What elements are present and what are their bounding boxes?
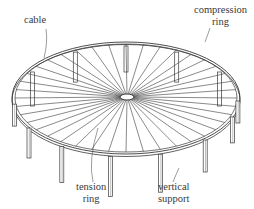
label-vertical-support-line2: support	[158, 193, 190, 205]
label-vertical-support-line1: vertical	[158, 181, 190, 193]
label-compression-ring-line1: compression	[194, 4, 247, 16]
label-tension-ring-line2: ring	[76, 193, 106, 205]
label-tension-ring: tension ring	[76, 181, 106, 205]
label-cable-text: cable	[24, 14, 46, 25]
label-vertical-support: vertical support	[158, 181, 190, 205]
label-compression-ring: compression ring	[194, 4, 247, 28]
tension-ring	[120, 94, 134, 100]
roof-structure-drawing	[0, 0, 254, 209]
label-cable: cable	[24, 14, 46, 26]
cable-roof-diagram: cable compression ring tension ring vert…	[0, 0, 254, 209]
label-compression-ring-line2: ring	[194, 16, 247, 28]
label-tension-ring-line1: tension	[76, 181, 106, 193]
